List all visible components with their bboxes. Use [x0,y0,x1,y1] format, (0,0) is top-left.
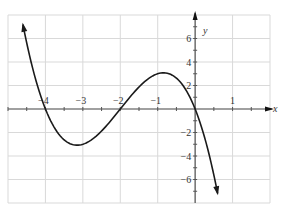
axes [8,11,274,203]
y-axis-label: y [202,25,208,36]
x-tick-label: 1 [230,95,235,106]
y-tick-label: −4 [181,151,192,162]
y-tick-label: 4 [186,57,191,68]
x-tick-label: −1 [150,95,161,106]
y-tick-label: 2 [186,80,191,91]
y-tick-label: −2 [181,127,192,138]
x-tick-label: −3 [76,95,87,106]
y-tick-label: −6 [181,174,192,185]
x-tick-label: −2 [113,95,124,106]
x-axis-label: x [272,103,278,114]
curve-arrow-down-icon [213,186,219,195]
function-graph: −4−3−2−11642−2−4−6 x y [0,0,281,211]
y-tick-label: 6 [186,33,191,44]
curve-arrow-up-icon [21,23,27,32]
